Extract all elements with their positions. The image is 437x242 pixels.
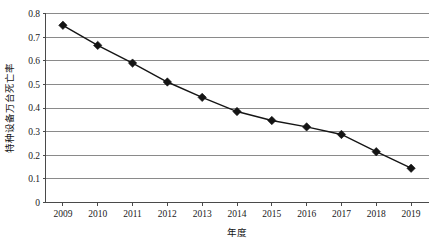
- x-axis-tick-label: 2015: [262, 209, 281, 219]
- x-axis-tick-label: 2009: [53, 209, 72, 219]
- data-point-marker: [302, 123, 310, 131]
- data-point-marker: [372, 148, 380, 156]
- y-axis-tick-label: 0.1: [28, 174, 40, 184]
- x-axis-title: 年度: [227, 227, 247, 238]
- series-line: [63, 25, 411, 168]
- x-axis-tick-label: 2017: [332, 209, 351, 219]
- x-axis-tick-label: 2018: [367, 209, 386, 219]
- y-axis-tick-label: 0.8: [28, 9, 40, 19]
- y-axis-tick-label: 0.5: [28, 80, 40, 90]
- chart-container: 00.10.20.30.40.50.60.70.8200920102011201…: [0, 0, 437, 242]
- data-point-marker: [128, 59, 136, 67]
- data-point-marker: [163, 78, 171, 86]
- x-axis-tick-label: 2014: [228, 209, 247, 219]
- data-point-marker: [268, 116, 276, 124]
- x-axis-tick-label: 2019: [402, 209, 421, 219]
- data-point-marker: [198, 93, 206, 101]
- y-axis-tick-label: 0.3: [28, 127, 40, 137]
- line-chart: 00.10.20.30.40.50.60.70.8200920102011201…: [0, 0, 437, 242]
- data-point-marker: [233, 107, 241, 115]
- y-axis-tick-label: 0.2: [28, 151, 40, 161]
- x-axis-tick-label: 2016: [297, 209, 316, 219]
- y-axis-tick-label: 0: [35, 198, 40, 208]
- data-point-marker: [59, 21, 67, 29]
- x-axis-tick-label: 2013: [193, 209, 212, 219]
- y-axis-tick-label: 0.6: [28, 56, 40, 66]
- y-axis-tick-label: 0.4: [28, 103, 40, 113]
- x-axis-tick-label: 2012: [158, 209, 177, 219]
- y-axis-title: 特种设备万台死亡率: [4, 63, 15, 153]
- x-axis-tick-label: 2011: [123, 209, 142, 219]
- y-axis-tick-label: 0.7: [28, 33, 40, 43]
- x-axis-tick-label: 2010: [88, 209, 107, 219]
- data-point-marker: [407, 164, 415, 172]
- data-point-marker: [94, 41, 102, 49]
